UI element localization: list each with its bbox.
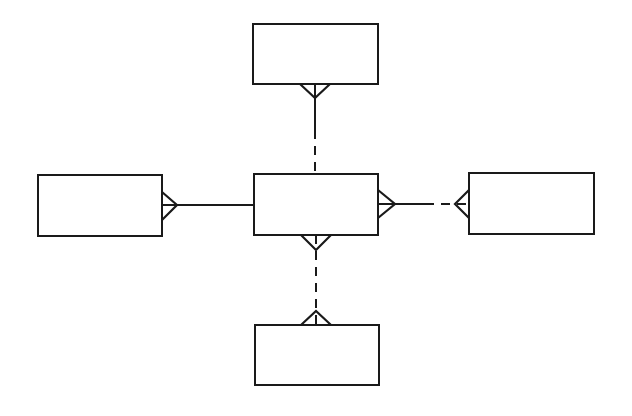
entity-right[interactable]: [469, 173, 594, 234]
entity-left[interactable]: [38, 175, 162, 236]
entity-bottom[interactable]: [255, 325, 379, 385]
relationship-center-right: [378, 190, 469, 218]
relationship-center-bottom: [301, 235, 331, 325]
entity-center[interactable]: [254, 174, 378, 235]
relationship-center-top: [300, 84, 330, 174]
entity-top[interactable]: [253, 24, 378, 84]
relationship-center-left: [162, 192, 254, 220]
er-diagram: [0, 0, 632, 416]
